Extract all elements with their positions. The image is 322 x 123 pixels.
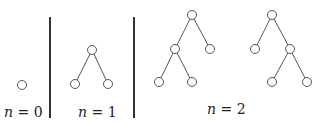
label-n2: n = 2 — [207, 101, 246, 117]
tree-node — [71, 80, 80, 89]
tree-node — [303, 78, 312, 87]
tree-node — [104, 80, 113, 89]
tree-n2-1 — [251, 11, 312, 87]
trees-group — [18, 11, 312, 90]
tree-node — [88, 46, 97, 55]
tree-edge — [175, 15, 192, 49]
tree-node — [206, 45, 215, 54]
tree-n0-0 — [18, 81, 27, 90]
tree-node — [155, 78, 164, 87]
tree-edge — [272, 49, 290, 82]
tree-edge — [92, 50, 108, 84]
tree-edge — [272, 15, 290, 49]
tree-node — [188, 11, 197, 20]
tree-edge — [192, 15, 210, 49]
tree-node — [171, 45, 180, 54]
label-n1: n = 1 — [78, 104, 117, 120]
tree-diagram: n = 0 n = 1 n = 2 — [0, 0, 322, 123]
tree-edge — [290, 49, 307, 82]
tree-node — [268, 11, 277, 20]
tree-n1-0 — [71, 46, 113, 89]
label-n0: n = 0 — [4, 104, 43, 120]
tree-edge — [159, 49, 175, 82]
tree-edge — [175, 49, 192, 82]
tree-node — [286, 45, 295, 54]
tree-edge — [75, 50, 92, 84]
tree-node — [268, 78, 277, 87]
tree-node — [251, 45, 260, 54]
tree-node — [188, 78, 197, 87]
tree-n2-0 — [155, 11, 215, 87]
tree-edge — [255, 15, 272, 49]
tree-node — [18, 81, 27, 90]
